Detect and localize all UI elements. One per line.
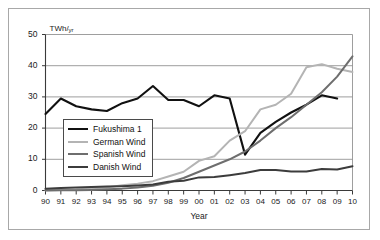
x-tick-label: 00 — [191, 197, 207, 206]
x-tick-label: 02 — [222, 197, 238, 206]
y-tick-label: 20 — [22, 122, 38, 132]
legend-item: German Wind — [68, 136, 147, 149]
x-tick-label: 92 — [68, 197, 84, 206]
legend-item: Danish Wind — [68, 161, 147, 174]
y-tick-label: 0 — [22, 185, 38, 195]
y-tick-label: 10 — [22, 153, 38, 163]
legend-item-label: Fukushima 1 — [93, 125, 142, 134]
x-tick-label: 93 — [84, 197, 100, 206]
x-tick-label: 94 — [99, 197, 115, 206]
chart-figure: TWh/yr 01020304050 909192939495969798990… — [0, 0, 380, 240]
x-tick-label: 07 — [298, 197, 314, 206]
legend-item-label: Danish Wind — [93, 163, 141, 172]
x-tick-label: 95 — [114, 197, 130, 206]
legend-color-swatch — [68, 141, 88, 143]
x-tick-label: 06 — [283, 197, 299, 206]
legend-item: Spanish Wind — [68, 148, 147, 161]
x-tick-label: 10 — [345, 197, 361, 206]
x-tick-label: 04 — [252, 197, 268, 206]
x-tick-label: 09 — [329, 197, 345, 206]
x-tick-label: 96 — [130, 197, 146, 206]
x-tick-label: 03 — [237, 197, 253, 206]
x-tick-label: 90 — [38, 197, 54, 206]
legend-item: Fukushima 1 — [68, 123, 147, 136]
legend-color-swatch — [68, 153, 88, 155]
legend-color-swatch — [68, 128, 88, 130]
x-tick-label: 91 — [53, 197, 69, 206]
y-tick-label: 50 — [22, 29, 38, 39]
x-axis-title: Year — [159, 211, 239, 221]
chart-legend: Fukushima 1German WindSpanish WindDanish… — [63, 119, 153, 177]
x-tick-label: 97 — [145, 197, 161, 206]
x-tick-label: 98 — [160, 197, 176, 206]
x-tick-label: 99 — [176, 197, 192, 206]
legend-item-label: Spanish Wind — [93, 150, 145, 159]
legend-color-swatch — [68, 166, 88, 168]
x-tick-label: 01 — [206, 197, 222, 206]
x-tick-label: 08 — [314, 197, 330, 206]
x-tick-label: 05 — [268, 197, 284, 206]
y-tick-label: 30 — [22, 91, 38, 101]
legend-item-label: German Wind — [93, 138, 145, 147]
y-tick-label: 40 — [22, 60, 38, 70]
